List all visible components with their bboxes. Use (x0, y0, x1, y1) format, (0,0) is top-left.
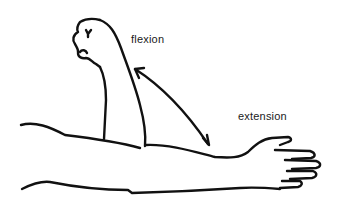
flexed-forearm-left-outline (100, 67, 106, 139)
finger-2 (285, 160, 320, 169)
finger-4 (280, 181, 302, 188)
arm-bottom-outline (22, 182, 280, 193)
flexion-label: flexion (131, 33, 164, 45)
forearm-top-outline (146, 137, 291, 157)
extension-label: extension (238, 110, 287, 122)
arm-illustration (0, 0, 341, 202)
fist-outline (73, 19, 100, 67)
finger-3 (287, 171, 316, 179)
upper-arm-top-outline (21, 124, 140, 148)
thumb-detail (80, 50, 87, 53)
finger-1 (275, 150, 315, 159)
knuckle-detail (86, 30, 91, 37)
arm-flexion-extension-diagram: flexion extension (0, 0, 341, 202)
